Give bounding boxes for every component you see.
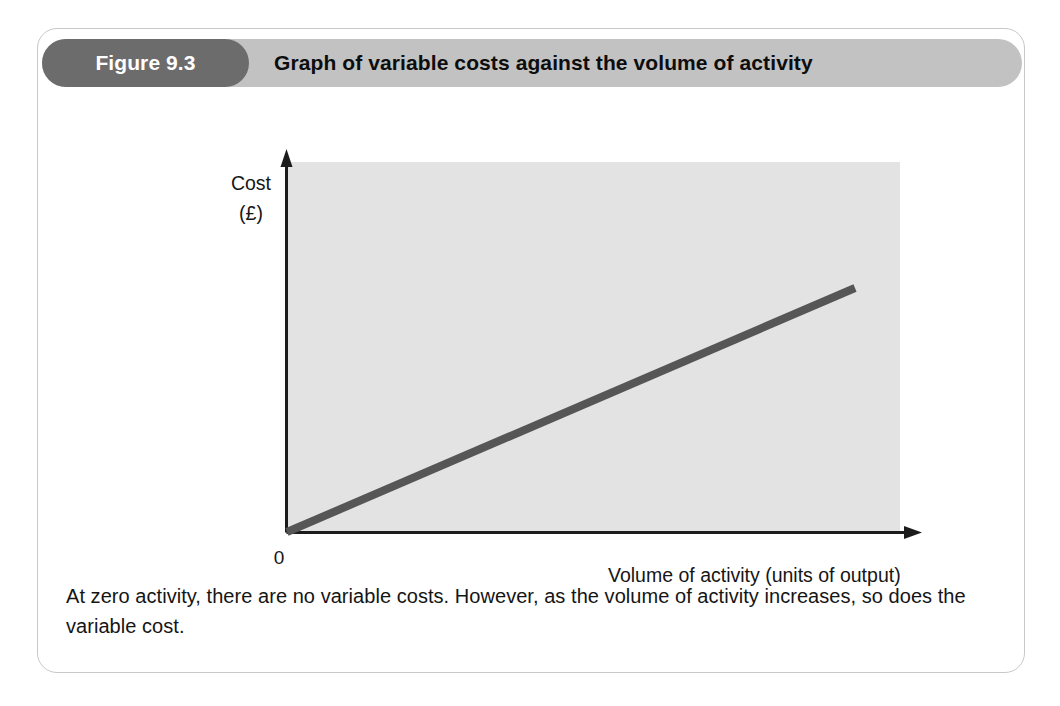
y-axis-label-line1: Cost [231,172,272,194]
figure-number-label: Figure 9.3 [95,51,195,75]
figure-card: Figure 9.3 Graph of variable costs again… [37,28,1025,673]
figure-header-bar: Figure 9.3 Graph of variable costs again… [42,39,1022,87]
chart-area: Cost (£) 0 Volume of activity (units of … [38,87,1023,607]
plot-background [288,162,900,532]
figure-title: Graph of variable costs against the volu… [274,39,813,87]
figure-number-pill: Figure 9.3 [42,39,249,87]
origin-label: 0 [274,547,285,568]
variable-cost-chart: Cost (£) 0 Volume of activity (units of … [38,87,1023,607]
x-axis-arrow-icon [904,526,922,539]
y-axis-arrow-icon [281,149,293,167]
y-axis-label-line2: (£) [239,202,263,224]
figure-caption: At zero activity, there are no variable … [66,581,996,641]
